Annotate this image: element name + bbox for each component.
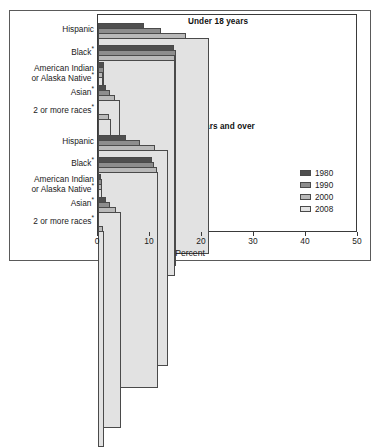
footnote-asterisk: *: [91, 85, 94, 92]
category-label-american-indian-18over: American Indian or Alaska Native*: [31, 175, 94, 194]
legend-swatch-2000: [300, 194, 311, 200]
category-label-hispanic-under18: Hispanic: [62, 25, 94, 35]
x-tick-20: [201, 232, 202, 236]
cat-text-line1: American Indian: [34, 63, 94, 73]
footnote-asterisk: *: [91, 182, 94, 189]
x-axis-label: Percent: [0, 248, 380, 258]
category-label-black-under18: Black*: [71, 48, 94, 58]
category-label-black-18over: Black*: [71, 159, 94, 169]
cat-text-line2: or Alaska Native: [31, 73, 91, 83]
x-tick-label-40: 40: [300, 236, 309, 246]
cat-text-line1: American Indian: [34, 174, 94, 184]
x-tick-label-0: 0: [95, 236, 100, 246]
x-tick-10: [149, 232, 150, 236]
legend-label-2008: 2008: [315, 205, 333, 214]
chart-legend: 1980199020002008: [300, 167, 333, 215]
bar-2008--or-more-races-: [98, 231, 104, 447]
category-label-two-or-more-under18: 2 or more races*: [33, 106, 94, 116]
legend-label-1990: 1990: [315, 181, 333, 190]
x-tick-50: [357, 232, 358, 236]
cat-text: Hispanic: [62, 24, 94, 34]
legend-swatch-1980: [300, 170, 311, 176]
x-tick-0: [97, 232, 98, 236]
category-label-american-indian-under18: American Indian or Alaska Native*: [31, 64, 94, 83]
x-tick-label-10: 10: [144, 236, 153, 246]
category-label-asian-18over: Asian*: [71, 199, 94, 209]
cat-text: Hispanic: [62, 136, 94, 146]
legend-item-1990: 1990: [300, 179, 333, 191]
footnote-asterisk: *: [91, 103, 94, 110]
category-label-two-or-more-18over: 2 or more races*: [33, 217, 94, 227]
legend-swatch-1990: [300, 182, 311, 188]
legend-swatch-2008: [300, 206, 311, 212]
x-tick-30: [253, 232, 254, 236]
category-label-hispanic-18over: Hispanic: [62, 137, 94, 147]
cat-text: Asian: [71, 87, 92, 97]
cat-text: Asian: [71, 198, 92, 208]
cat-text: Black: [71, 47, 91, 57]
legend-item-1980: 1980: [300, 167, 333, 179]
category-label-asian-under18: Asian*: [71, 88, 94, 98]
legend-item-2008: 2008: [300, 203, 333, 215]
footnote-asterisk: *: [91, 156, 94, 163]
legend-item-2000: 2000: [300, 191, 333, 203]
x-tick-label-50: 50: [352, 236, 361, 246]
footnote-asterisk: *: [91, 214, 94, 221]
footnote-asterisk: *: [91, 71, 94, 78]
cat-text: Black: [71, 158, 91, 168]
x-tick-40: [305, 232, 306, 236]
x-tick-label-20: 20: [196, 236, 205, 246]
cat-text-line2: or Alaska Native: [31, 184, 91, 194]
legend-label-2000: 2000: [315, 193, 333, 202]
x-tick-label-30: 30: [248, 236, 257, 246]
cat-text: 2 or more races: [33, 105, 91, 115]
cat-text: 2 or more races: [33, 216, 91, 226]
footnote-asterisk: *: [91, 196, 94, 203]
legend-label-1980: 1980: [315, 169, 333, 178]
footnote-asterisk: *: [91, 45, 94, 52]
